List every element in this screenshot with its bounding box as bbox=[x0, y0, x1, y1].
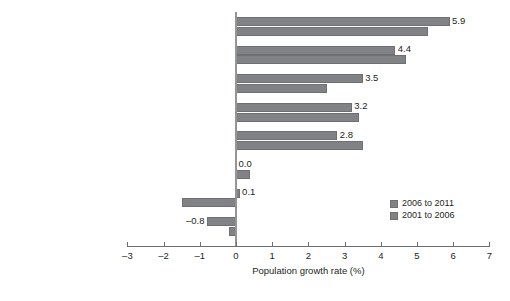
x-tick-label: –2 bbox=[152, 251, 176, 261]
x-tick bbox=[489, 242, 490, 247]
x-axis-title: Population growth rate (%) bbox=[127, 266, 489, 276]
x-tick bbox=[345, 242, 346, 247]
x-tick-label: 4 bbox=[369, 251, 393, 261]
legend-label: 2006 to 2011 bbox=[402, 199, 454, 208]
x-tick-label: 5 bbox=[405, 251, 429, 261]
bar bbox=[236, 103, 352, 112]
bar-value-label: 0.1 bbox=[242, 187, 255, 197]
x-tick bbox=[308, 242, 309, 247]
x-tick-label: 0 bbox=[224, 251, 248, 261]
x-tick bbox=[381, 242, 382, 247]
bar-value-label: 5.9 bbox=[452, 16, 465, 26]
bar bbox=[236, 113, 359, 122]
bar bbox=[207, 217, 236, 226]
bar-value-label: 3.2 bbox=[354, 101, 367, 111]
bar bbox=[236, 74, 363, 83]
x-tick-label: 6 bbox=[441, 251, 465, 261]
legend-label: 2001 to 2006 bbox=[402, 211, 455, 220]
x-tick-label: 2 bbox=[296, 251, 320, 261]
bar bbox=[236, 131, 337, 140]
bar bbox=[236, 141, 363, 150]
x-tick-label: –1 bbox=[188, 251, 212, 261]
bar bbox=[182, 198, 236, 207]
bar-value-label: –0.8 bbox=[186, 216, 205, 226]
x-tick bbox=[453, 242, 454, 247]
x-tick bbox=[164, 242, 165, 247]
bar bbox=[236, 170, 250, 179]
bar-value-label: 0.0 bbox=[239, 159, 252, 169]
x-tick bbox=[127, 242, 128, 247]
chart-legend: 2006 to 20112001 to 2006 bbox=[390, 198, 455, 222]
population-growth-bar-chart: CanadaUnited StatesUnited KingdomItalyFr… bbox=[0, 0, 510, 301]
legend-swatch bbox=[390, 212, 398, 220]
x-tick-label: 7 bbox=[477, 251, 501, 261]
bar bbox=[236, 17, 450, 26]
x-tick bbox=[236, 242, 237, 247]
bar bbox=[236, 55, 406, 64]
bar bbox=[236, 27, 428, 36]
zero-baseline bbox=[235, 12, 236, 246]
x-tick bbox=[272, 242, 273, 247]
x-tick-label: –3 bbox=[115, 251, 139, 261]
bar-value-label: 2.8 bbox=[340, 130, 353, 140]
legend-swatch bbox=[390, 200, 398, 208]
x-tick bbox=[417, 242, 418, 247]
x-tick-label: 1 bbox=[260, 251, 284, 261]
bar bbox=[236, 46, 395, 55]
x-tick-label: 3 bbox=[333, 251, 357, 261]
x-tick bbox=[200, 242, 201, 247]
legend-item: 2001 to 2006 bbox=[390, 210, 455, 221]
bar bbox=[236, 84, 327, 93]
bar-value-label: 3.5 bbox=[365, 73, 378, 83]
legend-item: 2006 to 2011 bbox=[390, 198, 455, 209]
bar-value-label: 4.4 bbox=[398, 44, 411, 54]
